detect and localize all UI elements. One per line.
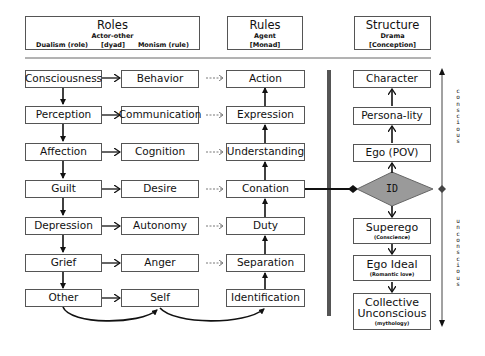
ego-ideal-sub: (Romantic love) bbox=[370, 272, 415, 277]
structure-collective-unconscious: Collective Unconscious (mythology) bbox=[353, 293, 431, 330]
structure-superego: Superego (Conscience) bbox=[353, 218, 431, 244]
monism-anger: Anger bbox=[121, 254, 199, 272]
dualism-consciousness: Consciousness bbox=[25, 70, 102, 88]
monism-behavior: Behavior bbox=[121, 70, 199, 88]
rules-separation: Separation bbox=[226, 254, 305, 272]
monism-self: Self bbox=[121, 289, 199, 307]
structure-id: ID bbox=[376, 182, 408, 196]
rules-conation: Conation bbox=[226, 180, 305, 198]
rules-action: Action bbox=[226, 70, 305, 88]
ego-ideal-label: Ego Ideal bbox=[367, 259, 418, 271]
structure-character: Character bbox=[353, 70, 431, 88]
monism-desire: Desire bbox=[121, 180, 199, 198]
dualism-other: Other bbox=[25, 289, 102, 307]
rules-identification: Identification bbox=[226, 289, 305, 307]
monism-communication: Communication bbox=[121, 106, 199, 124]
structure-ego-ideal: Ego Ideal (Romantic love) bbox=[353, 255, 431, 281]
collective-unconscious-sub: (mythology) bbox=[375, 321, 409, 326]
dualism-depression: Depression bbox=[25, 217, 102, 235]
collective-unconscious-label: Collective Unconscious bbox=[357, 297, 426, 320]
superego-label: Superego bbox=[366, 222, 418, 234]
dualism-guilt: Guilt bbox=[25, 180, 102, 198]
rules-understanding: Understanding bbox=[226, 143, 305, 161]
conscious-label: conscious bbox=[455, 88, 461, 145]
dualism-grief: Grief bbox=[25, 254, 102, 272]
dualism-affection: Affection bbox=[25, 143, 102, 161]
rules-duty: Duty bbox=[226, 217, 305, 235]
unconscious-label: unconscious bbox=[455, 218, 461, 287]
structure-personality: Persona-lity bbox=[353, 107, 431, 125]
rules-expression: Expression bbox=[226, 106, 305, 124]
structure-ego-pov: Ego (POV) bbox=[353, 144, 431, 162]
superego-sub: (Conscience) bbox=[374, 235, 410, 240]
dualism-perception: Perception bbox=[25, 106, 102, 124]
monism-autonomy: Autonomy bbox=[121, 217, 199, 235]
monism-cognition: Cognition bbox=[121, 143, 199, 161]
